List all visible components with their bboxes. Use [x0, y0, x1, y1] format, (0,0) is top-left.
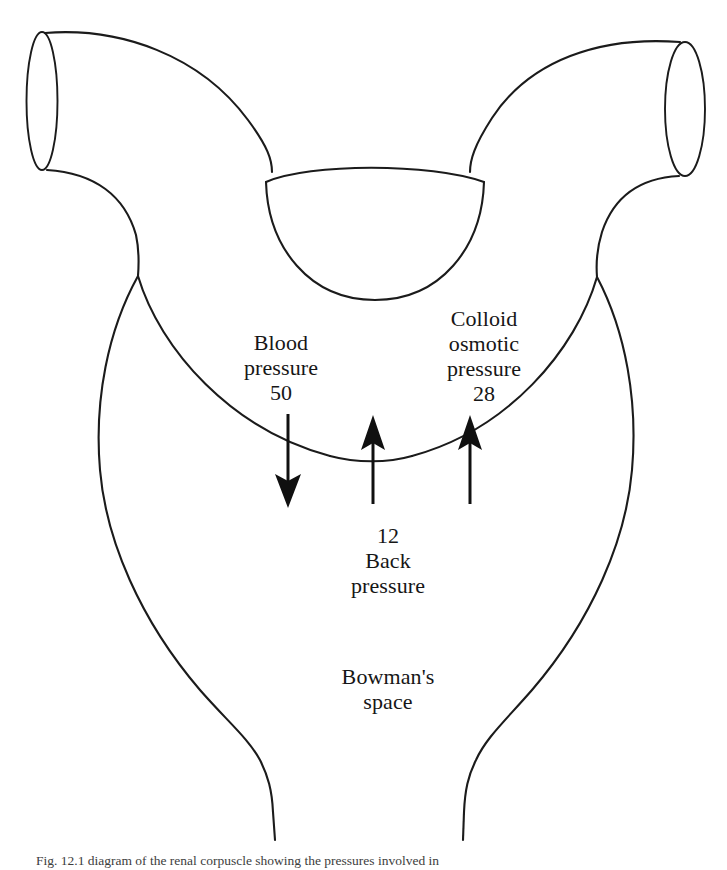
renal-corpuscle-diagram	[0, 0, 727, 870]
figure-caption: Fig. 12.1 diagram of the renal corpuscle…	[36, 852, 696, 870]
back-pressure-label: 12 Back pressure	[313, 523, 463, 598]
afferent-arteriole-upper-wall	[45, 32, 272, 172]
afferent-arteriole-opening	[27, 32, 58, 170]
proximal-tubule-left-wall	[273, 812, 275, 840]
bowmans-space-label: Bowman's space	[313, 664, 463, 714]
glomerular-tuft-upper-arc	[266, 168, 484, 182]
afferent-arteriole-lower-wall	[47, 170, 139, 276]
glomerular-tuft-lower-arc	[266, 182, 484, 300]
proximal-tubule-right-wall	[463, 812, 464, 840]
blood-pressure-label: Blood pressure 50	[206, 330, 356, 405]
figure-root: Blood pressure 50 Colloid osmotic pressu…	[0, 0, 727, 870]
efferent-arteriole-opening	[665, 42, 705, 176]
bowmans-capsule-inner-floor	[330, 456, 412, 461]
efferent-arteriole	[470, 41, 705, 277]
proximal-tubule	[273, 812, 464, 840]
glomerular-tuft	[266, 168, 484, 300]
efferent-arteriole-upper-wall	[470, 41, 680, 172]
efferent-arteriole-lower-wall	[597, 176, 679, 277]
blood-pressure-arrow	[275, 414, 301, 508]
afferent-arteriole	[27, 32, 273, 276]
colloid-osmotic-pressure-label: Colloid osmotic pressure 28	[408, 306, 560, 406]
back-pressure-arrow	[361, 415, 385, 504]
